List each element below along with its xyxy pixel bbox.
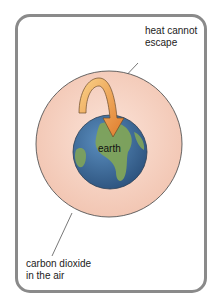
co2-leader-line xyxy=(52,213,72,256)
co2-label-line-2: in the air xyxy=(26,270,91,282)
earth-label: earth xyxy=(98,143,121,154)
carbon-dioxide-label: carbon dioxide in the air xyxy=(26,258,91,282)
heat-label-line-2: escape xyxy=(145,37,197,49)
heat-label-line-1: heat cannot xyxy=(145,25,197,37)
heat-cannot-escape-label: heat cannot escape xyxy=(145,25,197,49)
co2-label-line-1: carbon dioxide xyxy=(26,258,91,270)
